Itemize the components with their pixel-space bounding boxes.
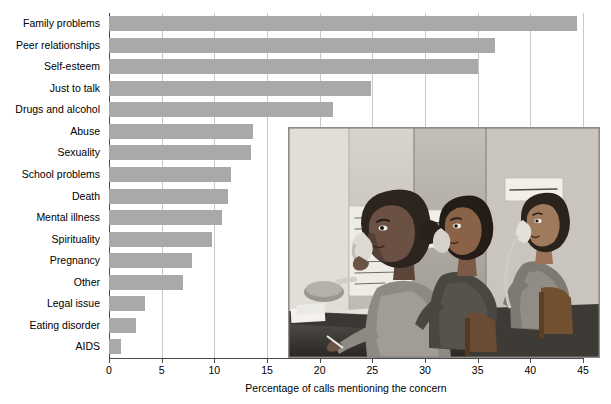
bar-row (109, 35, 583, 57)
category-axis-labels: Family problems Peer relationships Self-… (0, 13, 104, 358)
x-axis-title: Percentage of calls mentioning the conce… (109, 382, 583, 394)
x-axis-tick-label: 5 (159, 364, 165, 376)
bar-row (109, 56, 583, 78)
category-label: Eating disorder (0, 315, 104, 337)
category-label: Drugs and alcohol (0, 99, 104, 121)
hotline-photograph (288, 127, 600, 358)
category-label: AIDS (0, 336, 104, 358)
x-axis-tick (320, 358, 321, 363)
category-label: Legal issue (0, 293, 104, 315)
bar-row (109, 78, 583, 100)
category-label: Mental illness (0, 207, 104, 229)
x-axis-tick (478, 358, 479, 363)
x-axis-tick-label: 30 (419, 364, 431, 376)
x-axis-tick (162, 358, 163, 363)
x-axis-tick (267, 358, 268, 363)
x-axis-tick-label: 45 (577, 364, 589, 376)
bar (109, 81, 371, 96)
bar (109, 145, 251, 160)
category-label: Self-esteem (0, 56, 104, 78)
x-axis-tick-label: 25 (366, 364, 378, 376)
bar (109, 210, 222, 225)
x-axis-tick (530, 358, 531, 363)
x-axis-tick-label: 40 (524, 364, 536, 376)
x-axis-tick (425, 358, 426, 363)
x-axis-tick (372, 358, 373, 363)
category-label: Pregnancy (0, 250, 104, 272)
bar (109, 16, 577, 31)
category-label: Death (0, 186, 104, 208)
x-axis-line (109, 358, 583, 359)
bar (109, 232, 212, 247)
bar (109, 59, 478, 74)
category-label: Peer relationships (0, 35, 104, 57)
bar (109, 38, 495, 53)
bar (109, 296, 145, 311)
category-label: Sexuality (0, 142, 104, 164)
category-label: Family problems (0, 13, 104, 35)
category-label: Spirituality (0, 229, 104, 251)
category-label: Other (0, 272, 104, 294)
bar (109, 189, 228, 204)
bar (109, 124, 253, 139)
x-axis-tick-label: 10 (208, 364, 220, 376)
bar (109, 339, 121, 354)
x-axis-tick (214, 358, 215, 363)
bar-row (109, 13, 583, 35)
x-axis-tick (583, 358, 584, 363)
x-axis-tick (109, 358, 110, 363)
x-axis-tick-label: 0 (106, 364, 112, 376)
category-label: School problems (0, 164, 104, 186)
category-label: Abuse (0, 121, 104, 143)
bar (109, 253, 192, 268)
x-axis-tick-label: 20 (314, 364, 326, 376)
x-axis-tick-label: 35 (472, 364, 484, 376)
bar (109, 167, 231, 182)
bar-row (109, 99, 583, 121)
bar (109, 102, 333, 117)
bar (109, 318, 136, 333)
bar (109, 275, 183, 290)
bar-chart-figure: Family problems Peer relationships Self-… (0, 0, 611, 404)
category-label: Just to talk (0, 78, 104, 100)
x-axis-tick-label: 15 (261, 364, 273, 376)
photo-illustration (289, 128, 599, 357)
